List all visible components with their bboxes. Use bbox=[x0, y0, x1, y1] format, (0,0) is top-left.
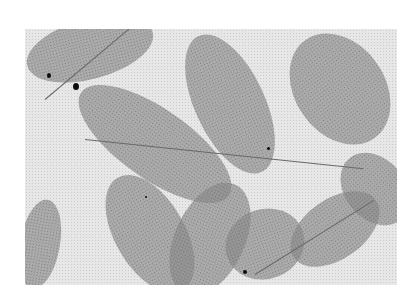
micrograph-image bbox=[25, 29, 397, 285]
dark-spot bbox=[145, 196, 147, 198]
dark-spot bbox=[267, 147, 270, 150]
dark-spot bbox=[47, 73, 51, 78]
dark-spot bbox=[73, 83, 79, 90]
dark-spot bbox=[243, 270, 247, 274]
